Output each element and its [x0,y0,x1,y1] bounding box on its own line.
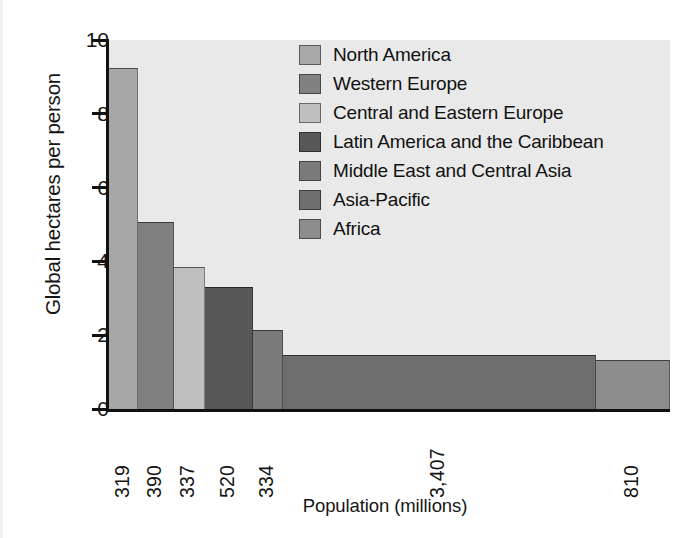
legend-item-7: Africa [299,216,604,241]
x-tick-label-5: 334 [255,418,275,498]
legend-item-4: Latin America and the Caribbean [299,129,604,154]
x-tick-label-7: 810 [620,418,640,498]
scan-edge [0,0,3,538]
bar-5 [253,330,284,409]
x-axis-title: Population (millions) [100,495,670,517]
legend-label: Central and Eastern Europe [333,102,563,124]
x-tick-label-3: 337 [176,418,196,498]
y-tick-label: 8 [41,102,109,126]
legend-label: Middle East and Central Asia [333,160,571,182]
legend-item-5: Middle East and Central Asia [299,158,604,183]
legend-label: Latin America and the Caribbean [333,131,604,153]
y-tick-label: 6 [41,176,109,200]
bar-7 [596,360,670,409]
legend-swatch-icon [299,74,321,94]
legend-swatch-icon [299,132,321,152]
bar-6 [283,355,595,409]
legend-item-1: North America [299,42,604,67]
bar-2 [138,222,174,409]
y-tick-label: 10 [41,28,109,52]
x-tick-label-2: 390 [143,418,163,498]
x-tick-label-1: 319 [111,418,131,498]
legend-swatch-icon [299,45,321,65]
legend-label: Asia-Pacific [333,189,430,211]
bar-1 [109,68,138,409]
legend-label: Western Europe [333,73,467,95]
legend-item-6: Asia-Pacific [299,187,604,212]
legend-item-3: Central and Eastern Europe [299,100,604,125]
legend: North AmericaWestern EuropeCentral and E… [299,42,604,241]
x-tick-label-6: 3,407 [426,418,446,498]
bar-4 [205,287,253,409]
y-tick-label: 4 [41,249,109,273]
figure: Global hectares per person 0246810 31939… [0,0,695,538]
legend-swatch-icon [299,161,321,181]
x-tick-label-4: 520 [216,418,236,498]
legend-item-2: Western Europe [299,71,604,96]
legend-swatch-icon [299,219,321,239]
y-tick-label: 2 [41,323,109,347]
legend-label: Africa [333,218,380,240]
legend-label: North America [333,44,451,66]
legend-swatch-icon [299,103,321,123]
y-tick-label: 0 [41,397,109,421]
legend-swatch-icon [299,190,321,210]
bar-3 [174,267,205,409]
